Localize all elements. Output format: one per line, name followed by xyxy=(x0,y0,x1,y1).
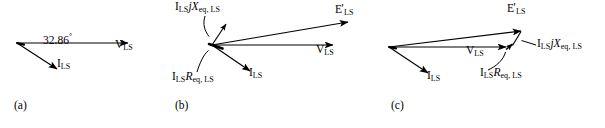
label-v-ls-c: VLS xyxy=(466,45,484,57)
leader-jx-drop-b xyxy=(204,16,209,37)
label-i-ls-b: ILS xyxy=(249,67,262,79)
label-v-ls-a: VLS xyxy=(115,39,133,51)
label-e-prime-ls-c: E'LS xyxy=(507,3,526,15)
vector-i-ls-a xyxy=(17,43,57,69)
vector-tail-cap-c xyxy=(389,47,396,48)
label-i-ls-r-eq-ls-c: ILSReq, LS xyxy=(480,67,522,79)
label-i-ls-a: ILS xyxy=(57,58,70,70)
leader-jx-drop-c xyxy=(522,41,537,46)
phasor-canvas xyxy=(0,0,605,128)
label-i-ls-r-eq-ls-b: ILSReq, LS xyxy=(172,71,214,83)
label-i-ls-c: ILS xyxy=(427,70,440,82)
label-i-ls-jx-eq-ls-c: ILSjXeq, LS xyxy=(537,38,582,50)
vector-i-ls-b xyxy=(212,45,250,71)
panel-a-vectors xyxy=(17,43,128,69)
vector-i-ls-c xyxy=(389,47,428,73)
label-e-prime-ls-b: E'LS xyxy=(335,4,354,16)
label-v-ls-b: VLS xyxy=(316,44,334,56)
caption-panel-c: (c) xyxy=(391,99,404,111)
vector-i-ls-jx-eq-ls-c xyxy=(513,32,522,46)
caption-panel-a: (a) xyxy=(14,99,27,111)
vector-i-ls-jx-eq-ls-b xyxy=(212,24,226,45)
label-i-ls-jx-eq-ls-b: ILSjXeq, LS xyxy=(175,1,220,13)
vector-i-ls-r-eq-ls-c xyxy=(506,44,513,50)
vector-tail-cap-a xyxy=(17,43,24,45)
vector-e-prime-ls-c xyxy=(389,31,521,47)
vector-e-prime-ls-b xyxy=(212,22,348,45)
phasor-figure: VLS ILS 32.86° (a) E'LS VLS ILS ILSjXeq,… xyxy=(0,0,605,128)
leader-r-drop-b xyxy=(197,51,209,73)
label-power-factor-angle-a: 32.86° xyxy=(43,33,72,46)
caption-panel-b: (b) xyxy=(175,99,188,111)
